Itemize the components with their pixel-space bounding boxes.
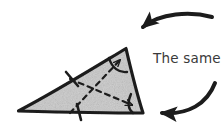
geometry-figure: The same! bbox=[0, 0, 222, 131]
callout-arrow-bottom-right-curve bbox=[162, 83, 215, 113]
annotation-label: The same! bbox=[152, 50, 222, 66]
callout-arrow-bottom-right bbox=[162, 83, 215, 113]
callout-arrow-top bbox=[143, 14, 212, 27]
callout-arrow-top-curve bbox=[143, 14, 212, 27]
sketch-canvas: The same! bbox=[0, 0, 222, 131]
